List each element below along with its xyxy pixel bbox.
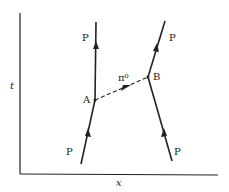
- arrow-icon: [161, 128, 167, 137]
- right-incoming-proton-line: [148, 77, 172, 161]
- label-p-top-right: P: [169, 32, 176, 43]
- label-p-bottom-left: P: [66, 146, 73, 157]
- vertex-b-dot: [147, 76, 150, 79]
- vertex-a-dot: [94, 99, 97, 102]
- vertex-b-label: B: [153, 71, 160, 82]
- x-axis-label: x: [116, 177, 122, 188]
- label-p-top-left: P: [82, 32, 89, 43]
- t-axis-label: t: [10, 80, 15, 91]
- arrow-icon: [85, 128, 91, 137]
- arrow-icon: [93, 41, 99, 49]
- left-outgoing-proton-line: [95, 22, 96, 100]
- x-axis: [20, 174, 218, 175]
- vertex-a-label: A: [82, 94, 91, 105]
- spacetime-diagram: P P P P A B π⁰ t x: [0, 0, 229, 192]
- pion-label: π⁰: [118, 72, 129, 83]
- arrow-icon: [121, 85, 131, 91]
- label-p-bottom-right: P: [174, 146, 181, 157]
